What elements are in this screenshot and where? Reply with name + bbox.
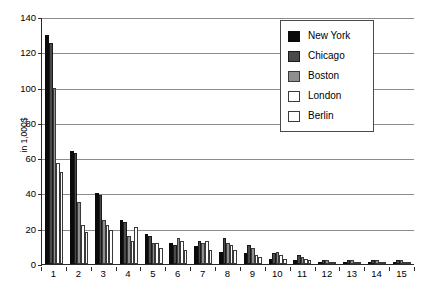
x-axis-tick-5: 5 [140,267,165,283]
bar-group [240,18,265,264]
bar [109,230,113,264]
y-axis-tick-0: 0 [31,260,36,270]
bar [134,227,138,264]
x-tickmark-14 [389,267,390,271]
x-tickmark-6 [190,267,191,271]
bar-chart: in 1,000$ 140120100806040200 12345678910… [0,0,428,291]
x-tickmark-3 [116,267,117,271]
y-axis-tick-140: 140 [20,13,36,23]
x-axis-tick-13: 13 [339,267,364,283]
x-axis-tick-2: 2 [66,267,91,283]
legend-label: London [308,90,341,102]
x-axis-tick-3: 3 [91,267,116,283]
y-tickmark-0 [38,265,42,266]
legend-item-london[interactable]: London [288,86,367,106]
legend-label: Berlin [308,110,334,122]
bar [333,262,337,264]
bar [184,250,188,264]
legend-item-berlin[interactable]: Berlin [288,106,367,126]
bar-group [67,18,92,264]
bar [357,262,361,264]
x-tickmark-7 [215,267,216,271]
y-axis-tick-120: 120 [20,48,36,58]
legend-label: Boston [308,70,339,82]
x-axis-tick-1: 1 [41,267,66,283]
x-tickmark-11 [315,267,316,271]
chart-legend: New YorkChicagoBostonLondonBerlin [280,20,374,132]
x-tickmark-9 [265,267,266,271]
x-axis-tick-12: 12 [314,267,339,283]
bar [382,262,386,264]
x-axis-tick-14: 14 [364,267,389,283]
x-axis-tick-6: 6 [165,267,190,283]
bar-group [42,18,67,264]
x-tickmark-10 [290,267,291,271]
bar [85,232,89,264]
bar [209,250,213,264]
y-axis-tick-80: 80 [25,119,36,129]
series-swatch-berlin-icon [288,111,300,122]
x-axis-tick-15: 15 [389,267,414,283]
bar-group [141,18,166,264]
bar-group [92,18,117,264]
x-tickmark-origin [41,267,42,271]
series-swatch-chicago-icon [288,51,300,62]
x-axis-tick-7: 7 [190,267,215,283]
x-axis-tick-9: 9 [240,267,265,283]
bar-group [116,18,141,264]
bar [283,259,287,264]
legend-label: New York [308,30,350,42]
legend-item-chicago[interactable]: Chicago [288,46,367,66]
series-swatch-boston-icon [288,71,300,82]
x-axis-tick-4: 4 [116,267,141,283]
y-axis-tick-40: 40 [25,189,36,199]
x-tickmark-4 [140,267,141,271]
x-tickmark-8 [240,267,241,271]
series-swatch-london-icon [288,91,300,102]
x-axis-tick-11: 11 [290,267,315,283]
x-axis-tick-labels: 123456789101112131415 [41,267,414,283]
x-tickmark-5 [165,267,166,271]
series-swatch-new-york-icon [288,31,300,42]
bar-group [389,18,414,264]
y-axis-tick-20: 20 [25,225,36,235]
x-axis-tick-8: 8 [215,267,240,283]
x-tickmark-13 [364,267,365,271]
x-axis-tick-10: 10 [265,267,290,283]
legend-item-new-york[interactable]: New York [288,26,367,46]
bar [233,250,237,264]
bar [159,248,163,264]
y-axis-tick-labels: 140120100806040200 [0,0,40,291]
x-tickmark-15 [414,267,415,271]
x-tickmark-12 [339,267,340,271]
bar [407,262,411,264]
y-axis-tick-100: 100 [20,84,36,94]
bar [258,257,262,264]
legend-item-boston[interactable]: Boston [288,66,367,86]
x-tickmark-2 [91,267,92,271]
y-axis-tick-60: 60 [25,154,36,164]
x-tickmark-1 [66,267,67,271]
bar [308,260,312,264]
legend-label: Chicago [308,50,345,62]
bar-group [191,18,216,264]
bar-group [166,18,191,264]
bar [60,172,64,264]
bar-group [216,18,241,264]
